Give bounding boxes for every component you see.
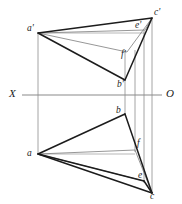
edge-aprime-fprime-light: [38, 33, 127, 52]
edge-a-b: [38, 114, 125, 154]
vertex-label-e: e: [138, 171, 142, 181]
edge-aprime-bprime: [38, 33, 125, 80]
axis-label-o: O: [166, 88, 174, 99]
geometry-diagram: a' c' e' f' b' b f a e c X O: [0, 0, 182, 204]
edge-a-f-light: [38, 150, 135, 154]
vertex-label-a: a: [27, 149, 32, 159]
edge-a-c: [38, 154, 152, 193]
vertex-label-b: b: [116, 106, 121, 116]
vertex-label-a-prime: a': [27, 24, 34, 34]
projector-line-group: [38, 18, 152, 193]
vertex-label-f-prime: f': [121, 50, 126, 60]
vertex-label-c-prime: c': [154, 8, 160, 18]
vertex-label-f: f: [137, 139, 140, 149]
vertex-label-e-prime: e': [135, 21, 141, 31]
vertex-label-b-prime: b': [117, 80, 124, 90]
edge-a-e-heavy: [38, 154, 144, 181]
edge-b-c: [125, 114, 152, 193]
vertex-label-c: c: [150, 192, 154, 202]
axis-label-x: X: [9, 88, 16, 99]
auxiliary-line-group: [38, 33, 145, 154]
